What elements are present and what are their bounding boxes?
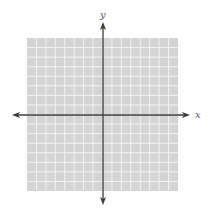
coordinate-plane: x y — [0, 0, 207, 211]
x-axis-label: x — [195, 109, 201, 120]
y-axis-label: y — [99, 9, 106, 20]
